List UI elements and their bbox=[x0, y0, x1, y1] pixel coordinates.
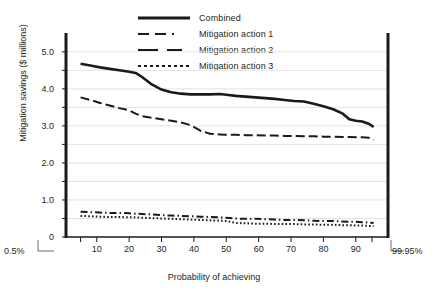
x-axis-left-end-label: 0.5% bbox=[4, 246, 25, 256]
y-tick-label: 0 bbox=[20, 232, 54, 242]
x-tick-label: 50 bbox=[221, 244, 231, 254]
x-tick-label: 60 bbox=[254, 244, 264, 254]
y-tick-label: 1.0 bbox=[20, 195, 54, 205]
x-tick-label: 10 bbox=[92, 244, 102, 254]
chart-figure: CombinedMitigation action 1Mitigation ac… bbox=[0, 0, 448, 302]
x-tick-label: 70 bbox=[286, 244, 296, 254]
series-line-mitigation-action-1 bbox=[81, 212, 374, 223]
x-tick-label: 20 bbox=[124, 244, 134, 254]
series-line-mitigation-action-2 bbox=[81, 97, 374, 140]
plot-canvas bbox=[0, 0, 448, 302]
series-line-combined bbox=[81, 64, 374, 127]
x-tick-label: 90 bbox=[351, 244, 361, 254]
y-tick-label: 2.0 bbox=[20, 158, 54, 168]
x-axis-title: Probability of achieving bbox=[66, 272, 362, 282]
x-tick-label: 40 bbox=[189, 244, 199, 254]
x-axis-right-end-label: 99.95% bbox=[392, 246, 423, 256]
x-tick-label: 30 bbox=[156, 244, 166, 254]
x-tick-label: 80 bbox=[318, 244, 328, 254]
y-axis-title: Mitigation savings ($ millions) bbox=[18, 18, 28, 148]
